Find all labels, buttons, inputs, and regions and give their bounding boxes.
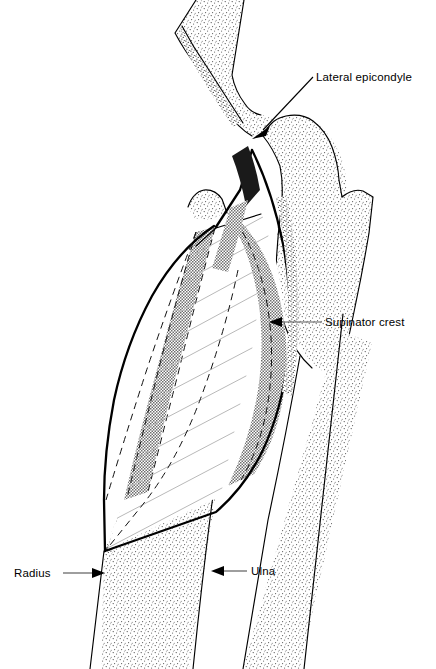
- anatomical-figure: Lateral epicondyle Supinator crest Radiu…: [0, 0, 436, 669]
- radial-head: [188, 190, 227, 220]
- lateral-epicondyle-text: Lateral epicondyle: [316, 71, 412, 83]
- supinator-crest-text: Supinator crest: [325, 316, 405, 328]
- radius-text: Radius: [14, 567, 51, 579]
- anatomy-illustration: Lateral epicondyle Supinator crest Radiu…: [0, 0, 436, 669]
- label-radius: Radius: [14, 567, 105, 579]
- arrowhead-ulna: [211, 566, 224, 576]
- label-ulna: Ulna: [211, 565, 276, 577]
- ulna-text: Ulna: [251, 565, 276, 577]
- arrowhead-radius: [92, 568, 105, 578]
